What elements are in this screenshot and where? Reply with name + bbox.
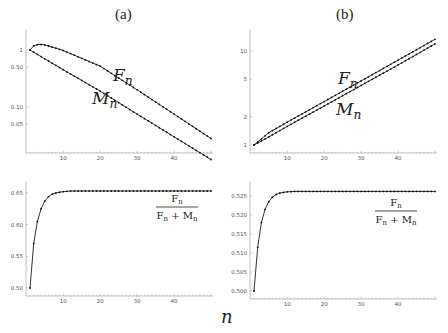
x-tick-label: 20 [97,155,104,161]
series-line [254,44,435,145]
x-tick-label: 10 [60,298,67,304]
x-tick-label: 30 [358,155,365,161]
y-tick-label: 0.510 [231,250,247,256]
y-tick-label: 0.10 [11,104,24,110]
x-tick-label: 40 [171,155,178,161]
series-line [254,191,435,291]
x-tick-label: 30 [358,301,365,307]
x-tick-label: 10 [284,301,291,307]
chart-bottom-right: 102030400.5250.5200.5150.5100.5050.500 [231,182,437,307]
label-M-a: Mn [91,88,117,111]
y-tick-label: 0.515 [231,231,247,237]
series-line [254,39,435,145]
y-tick-label: 10 [240,48,247,54]
y-tick-label: 5 [244,76,248,82]
y-tick-label: 0.500 [231,288,247,294]
label-M-b: Mn [335,99,361,122]
x-tick-label: 40 [395,155,402,161]
x-tick-label: 20 [97,298,104,304]
y-tick-label: 2 [244,114,248,120]
y-tick-label: 0.50 [11,64,24,70]
x-tick-label: 20 [321,301,328,307]
x-tick-label: 20 [321,155,328,161]
y-tick-label: 1 [244,142,248,148]
y-tick-label: 0.60 [11,222,24,228]
chart-top-left: 1020304010.500.100.05 [11,30,213,161]
y-tick-label: 0.55 [11,253,24,259]
y-tick-label: 0.50 [11,285,24,291]
svg-text:Fn + Mn: Fn + Mn [376,214,417,227]
chart-canvas: 1020304010.500.100.051020304012510102030… [0,0,448,333]
y-tick-label: 0.520 [231,212,247,218]
svg-text:Fn: Fn [171,193,183,206]
label-F-b: Fn [337,68,358,91]
series-line [30,44,211,138]
series-line [30,191,211,288]
chart-top-right: 1020304012510 [240,30,437,161]
x-tick-label: 30 [134,298,141,304]
x-tick-label: 40 [171,298,178,304]
y-tick-label: 0.05 [11,121,24,127]
x-tick-label: 10 [284,155,291,161]
ratio-label-b: FnFn + Mn [375,197,417,227]
x-axis-label: n [221,306,233,327]
y-tick-label: 1 [20,47,24,53]
x-tick-label: 10 [60,155,67,161]
x-tick-label: 30 [134,155,141,161]
label-F-a: Fn [112,65,133,88]
svg-text:Fn: Fn [390,197,402,210]
y-tick-label: 0.65 [11,190,24,196]
y-tick-label: 0.525 [231,193,247,199]
ratio-label-a: FnFn + Mn [156,193,198,223]
svg-text:Fn + Mn: Fn + Mn [157,210,198,223]
x-tick-label: 40 [395,301,402,307]
y-tick-label: 0.505 [231,269,247,275]
